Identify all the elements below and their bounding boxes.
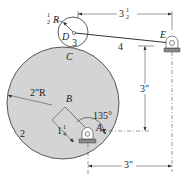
label-link-2: 2 (20, 128, 25, 139)
label-C: C (66, 51, 73, 62)
mechanism-diagram: 1 2 R D 3 C 3 1 2 4 E 3" 2"R B 135° 2 1 … (0, 0, 190, 177)
link-4 (75, 33, 171, 43)
link-length-num: 1 (126, 7, 129, 13)
label-link-4: 4 (118, 41, 123, 52)
small-radius-label: R (52, 14, 59, 25)
small-radius-den: 2 (47, 19, 50, 25)
label-B: B (66, 93, 72, 104)
small-radius-frac: 1 (47, 12, 50, 18)
label-link-3: 3 (72, 37, 77, 48)
horizontal-dim-label: 3" (124, 159, 133, 170)
label-E: E (159, 29, 166, 40)
label-A: A (95, 122, 103, 133)
disk-2 (7, 47, 119, 159)
offset-whole: 1 (57, 125, 62, 136)
disk-radius-label: 2"R (30, 87, 46, 98)
label-D: D (61, 31, 70, 42)
offset-num: 1 (63, 124, 66, 130)
link-length-whole: 3 (119, 8, 124, 19)
vertical-dim-label: 3" (140, 83, 149, 94)
link-length-den: 2 (126, 14, 129, 20)
angle-label: 135° (93, 110, 112, 121)
offset-den: 4 (63, 131, 66, 137)
